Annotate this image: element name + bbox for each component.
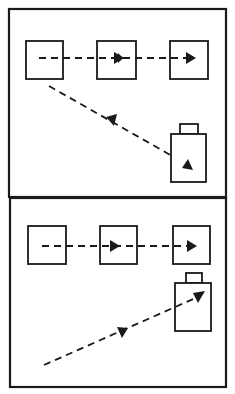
battery-icon xyxy=(175,273,211,331)
square-1 xyxy=(28,226,66,264)
battery-body xyxy=(175,283,211,331)
panel-top xyxy=(9,9,226,197)
diagram-canvas xyxy=(0,0,235,394)
arrowhead-icon xyxy=(117,327,128,338)
panel-bottom xyxy=(10,198,226,387)
diagonal-dashed-arrow-line xyxy=(49,86,188,165)
battery-icon xyxy=(171,124,206,182)
battery-terminal xyxy=(186,273,202,283)
battery-terminal xyxy=(180,124,198,134)
square-1 xyxy=(26,41,63,79)
square-2 xyxy=(100,226,137,264)
battery-body xyxy=(171,134,206,182)
